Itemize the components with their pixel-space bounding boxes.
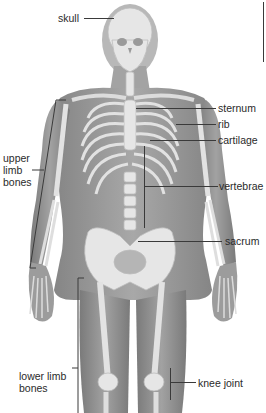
label-skull: skull: [58, 12, 79, 24]
upper-limb-bracket: [0, 0, 266, 413]
skeleton-diagram: skull sternum rib cartilage vertebrae sa…: [0, 0, 266, 413]
label-upper-limb-2: limb: [3, 164, 22, 176]
label-sacrum: sacrum: [225, 235, 259, 247]
label-sternum: sternum: [218, 102, 256, 114]
label-lower-limb-2: bones: [19, 382, 48, 394]
label-vertebrae: vertebrae: [219, 180, 263, 192]
label-knee-joint: knee joint: [198, 377, 243, 389]
label-upper-limb-3: bones: [3, 176, 32, 188]
label-cartilage: cartilage: [218, 134, 258, 146]
label-lower-limb-1: lower limb: [19, 370, 66, 382]
label-rib: rib: [218, 118, 230, 130]
label-upper-limb-1: upper: [3, 152, 30, 164]
